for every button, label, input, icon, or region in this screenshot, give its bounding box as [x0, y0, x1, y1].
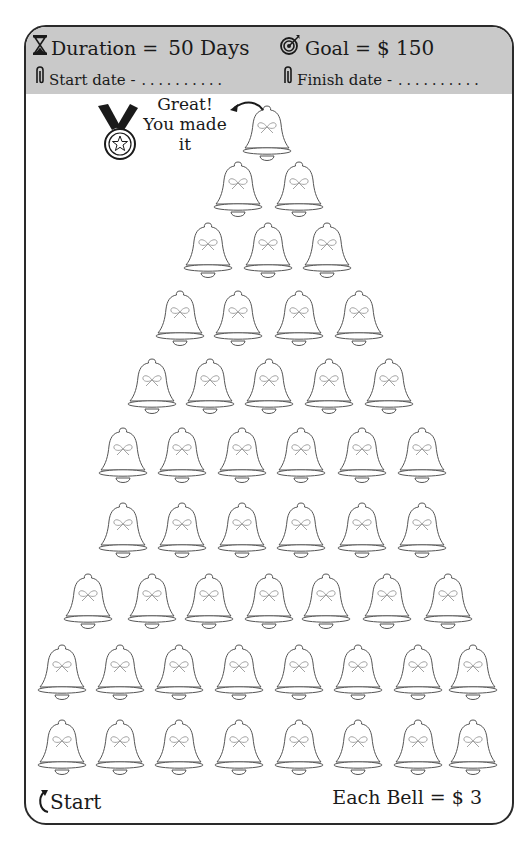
bell-icon[interactable] — [332, 716, 384, 780]
bell-icon[interactable] — [273, 158, 325, 222]
bell-icon[interactable] — [182, 219, 234, 283]
bell-icon[interactable] — [241, 102, 293, 166]
bell-icon[interactable] — [36, 641, 88, 705]
start-marker: Start — [36, 788, 101, 814]
start-label: Start — [50, 790, 101, 814]
bell-icon[interactable] — [422, 570, 474, 634]
bell-icon[interactable] — [212, 287, 264, 351]
start-date-row: Start date - .......... — [34, 65, 226, 89]
finish-date-label: Finish date - — [297, 71, 392, 89]
bell-icon[interactable] — [243, 355, 295, 419]
bell-icon[interactable] — [243, 570, 295, 634]
bell-icon[interactable] — [62, 570, 114, 634]
bell-icon[interactable] — [336, 424, 388, 488]
duration-value: 50 Days — [168, 36, 249, 60]
bell-icon[interactable] — [275, 499, 327, 563]
bell-icon[interactable] — [300, 570, 352, 634]
bell-icon[interactable] — [36, 716, 88, 780]
bell-icon[interactable] — [363, 355, 415, 419]
bell-icon[interactable] — [183, 570, 235, 634]
medal-icon — [96, 102, 140, 162]
bell-icon[interactable] — [392, 641, 444, 705]
goal-value: $ 150 — [377, 36, 434, 60]
bell-icon[interactable] — [216, 499, 268, 563]
bell-icon[interactable] — [184, 355, 236, 419]
finish-message-line2: You made — [140, 114, 230, 134]
start-date-field[interactable]: .......... — [142, 72, 227, 88]
goal-label: Goal = — [305, 37, 371, 59]
bell-icon[interactable] — [273, 716, 325, 780]
finish-date-row: Finish date - .......... — [282, 65, 483, 89]
bell-icon[interactable] — [447, 641, 499, 705]
start-date-label: Start date - — [49, 71, 136, 89]
bell-icon[interactable] — [94, 641, 146, 705]
bell-icon[interactable] — [301, 219, 353, 283]
bell-icon[interactable] — [396, 424, 448, 488]
paperclip-icon — [282, 65, 294, 89]
hourglass-icon — [32, 35, 48, 59]
finish-date-field[interactable]: .......... — [398, 72, 483, 88]
bell-icon[interactable] — [396, 499, 448, 563]
duration-row: Duration = 50 Days — [32, 35, 250, 60]
bell-icon[interactable] — [361, 570, 413, 634]
finish-message-line3: it — [140, 134, 230, 154]
bell-icon[interactable] — [153, 641, 205, 705]
bell-icon[interactable] — [153, 716, 205, 780]
bell-icon[interactable] — [156, 424, 208, 488]
header-band: Duration = 50 Days Goal = $ 150 Start da… — [26, 27, 512, 94]
bell-icon[interactable] — [126, 355, 178, 419]
bell-icon[interactable] — [332, 641, 384, 705]
bell-icon[interactable] — [213, 641, 265, 705]
bell-icon[interactable] — [333, 287, 385, 351]
each-bell-value: Each Bell = $ 3 — [332, 786, 482, 808]
paperclip-icon — [34, 65, 46, 89]
bell-icon[interactable] — [126, 570, 178, 634]
duration-label: Duration = — [51, 37, 158, 59]
bell-icon[interactable] — [392, 716, 444, 780]
bell-icon[interactable] — [213, 716, 265, 780]
finish-message: Great! You made it — [140, 94, 230, 154]
finish-message-line1: Great! — [140, 94, 230, 114]
bell-icon[interactable] — [97, 424, 149, 488]
bell-icon[interactable] — [273, 641, 325, 705]
bell-icon[interactable] — [154, 287, 206, 351]
bell-icon[interactable] — [303, 355, 355, 419]
bell-icon[interactable] — [216, 424, 268, 488]
bell-icon[interactable] — [242, 219, 294, 283]
bell-icon[interactable] — [336, 499, 388, 563]
bell-icon[interactable] — [273, 287, 325, 351]
bell-icon[interactable] — [275, 424, 327, 488]
target-icon — [280, 35, 302, 59]
bell-icon[interactable] — [97, 499, 149, 563]
bell-icon[interactable] — [156, 499, 208, 563]
curved-arrow-up-icon — [36, 788, 50, 814]
goal-row: Goal = $ 150 — [280, 35, 434, 60]
bell-icon[interactable] — [447, 716, 499, 780]
bell-icon[interactable] — [212, 158, 264, 222]
bell-icon[interactable] — [94, 716, 146, 780]
